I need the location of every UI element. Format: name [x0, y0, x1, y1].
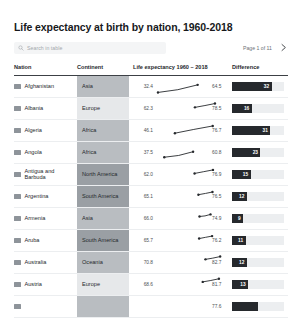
- cell-difference: 11: [232, 229, 288, 251]
- flag-au-icon: [14, 260, 21, 265]
- chevron-right-icon[interactable]: [279, 43, 288, 52]
- cell-difference: 15: [232, 163, 288, 185]
- value-end: 81.7: [212, 282, 232, 287]
- difference-value: 12: [239, 258, 244, 267]
- column-header-continent[interactable]: Continent: [77, 64, 133, 75]
- continent-chip: Asia: [77, 76, 129, 97]
- continent-chip: Asia: [77, 208, 129, 229]
- cell-nation: [14, 295, 77, 317]
- difference-track: 15: [232, 170, 284, 179]
- continent-chip: Europe: [77, 98, 129, 119]
- cell-difference: 16: [232, 97, 288, 119]
- cell-continent: Africa: [77, 119, 133, 141]
- cell-life-expectancy: 32.464.5: [133, 75, 232, 97]
- cell-nation: Argentina: [14, 185, 77, 207]
- cell-continent: Africa: [77, 141, 133, 163]
- difference-value: 15: [243, 170, 248, 179]
- cell-nation: Australia: [14, 251, 77, 273]
- flag-dz-icon: [14, 128, 21, 133]
- cell-life-expectancy: 70.882.7: [133, 251, 232, 273]
- cell-continent: Europe: [77, 97, 133, 119]
- cell-difference: 32: [232, 75, 288, 97]
- value-start: 65.1: [133, 194, 153, 199]
- flag-at-icon: [14, 282, 21, 287]
- difference-bar: 13: [232, 280, 248, 289]
- flag-al-icon: [14, 106, 21, 111]
- cell-nation: Austria: [14, 273, 77, 295]
- cell-nation: Afghanistan: [14, 75, 77, 97]
- page-title: Life expectancy at birth by nation, 1960…: [14, 0, 288, 34]
- cell-difference: [232, 295, 288, 317]
- cell-continent: Asia: [77, 207, 133, 229]
- value-start: 66.0: [133, 216, 153, 221]
- table-row[interactable]: AustraliaOceania70.882.712: [14, 251, 288, 273]
- difference-bar: 15: [232, 170, 251, 179]
- nation-label: Armenia: [25, 215, 46, 222]
- nation-label: Australia: [25, 259, 47, 266]
- column-header-life-expectancy[interactable]: Life expectancy 1960 – 2018: [133, 64, 232, 75]
- difference-bar: [232, 302, 258, 311]
- continent-chip: South America: [77, 230, 129, 251]
- table-row[interactable]: 77.6: [14, 295, 288, 317]
- difference-track: 11: [232, 236, 284, 245]
- continent-chip: Europe: [77, 274, 129, 295]
- cell-difference: 12: [232, 251, 288, 273]
- search-placeholder-text: Search in table: [27, 45, 62, 51]
- column-header-nation[interactable]: Nation: [14, 64, 77, 75]
- difference-bar: 23: [232, 148, 260, 157]
- data-table: Nation Continent Life expectancy 1960 – …: [14, 64, 288, 318]
- nation-label: Austria: [25, 281, 42, 288]
- table-row[interactable]: AustriaEurope68.681.713: [14, 273, 288, 295]
- table-row[interactable]: ArgentinaSouth America65.176.512: [14, 185, 288, 207]
- difference-value: 32: [264, 82, 269, 91]
- difference-track: 12: [232, 192, 284, 201]
- cell-life-expectancy: 65.776.2: [133, 229, 232, 251]
- difference-value: 9: [238, 214, 241, 223]
- value-end: 64.5: [212, 84, 232, 89]
- table-toolbar: Search in table Page 1 of 11: [14, 41, 288, 54]
- difference-value: 31: [263, 126, 268, 135]
- continent-chip: Africa: [77, 142, 129, 163]
- cell-continent: [77, 295, 133, 317]
- column-header-difference[interactable]: Difference: [232, 64, 288, 75]
- nation-label: Angola: [25, 149, 42, 156]
- table-row[interactable]: AfghanistanAsia32.464.532: [14, 75, 288, 97]
- flag-af-icon: [14, 84, 21, 89]
- cell-nation: Antigua and Barbuda: [14, 163, 77, 185]
- difference-track: 9: [232, 214, 284, 223]
- continent-chip: Africa: [77, 120, 129, 141]
- table-row[interactable]: AlgeriaAfrica46.176.731: [14, 119, 288, 141]
- table-row[interactable]: AngolaAfrica37.560.823: [14, 141, 288, 163]
- difference-bar: 31: [232, 126, 270, 135]
- difference-bar: 12: [232, 192, 247, 201]
- table-row[interactable]: ArmeniaAsia66.074.99: [14, 207, 288, 229]
- cell-life-expectancy: 37.560.8: [133, 141, 232, 163]
- cell-nation: Aruba: [14, 229, 77, 251]
- difference-track: 12: [232, 258, 284, 267]
- cell-continent: North America: [77, 163, 133, 185]
- cell-difference: 9: [232, 207, 288, 229]
- cell-continent: Asia: [77, 75, 133, 97]
- table-row[interactable]: AlbaniaEurope62.378.516: [14, 97, 288, 119]
- difference-bar: 32: [232, 82, 272, 91]
- difference-value: 11: [238, 236, 243, 245]
- value-start: 68.6: [133, 282, 153, 287]
- search-input[interactable]: Search in table: [14, 42, 166, 54]
- table-row[interactable]: Antigua and BarbudaNorth America62.076.9…: [14, 163, 288, 185]
- nation-label: Antigua and Barbuda: [25, 168, 74, 181]
- flag-am-icon: [14, 216, 21, 221]
- cell-life-expectancy: 62.076.9: [133, 163, 232, 185]
- table-row[interactable]: ArubaSouth America65.776.211: [14, 229, 288, 251]
- nation-label: Aruba: [25, 237, 40, 244]
- cell-life-expectancy: 77.6: [133, 295, 232, 317]
- cell-difference: 12: [232, 185, 288, 207]
- difference-track: 32: [232, 82, 284, 91]
- cell-continent: Europe: [77, 273, 133, 295]
- value-start: 37.5: [133, 150, 153, 155]
- cell-difference: 31: [232, 119, 288, 141]
- cell-life-expectancy: 46.176.7: [133, 119, 232, 141]
- difference-track: 23: [232, 148, 284, 157]
- cell-difference: 23: [232, 141, 288, 163]
- value-end: 77.6: [212, 304, 232, 309]
